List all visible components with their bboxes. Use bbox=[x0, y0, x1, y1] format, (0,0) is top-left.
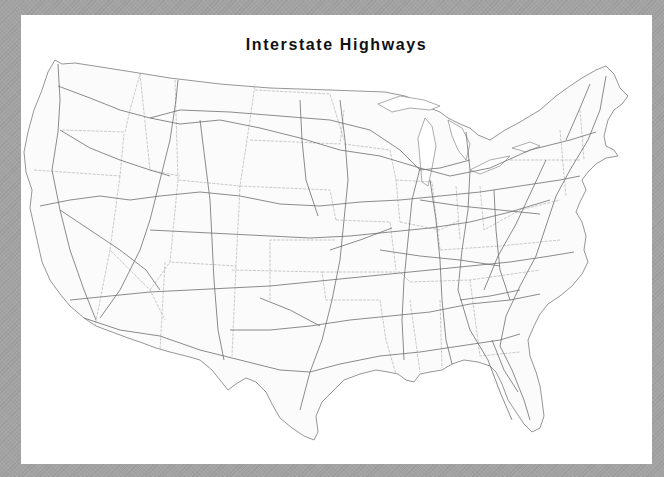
us-landmass bbox=[24, 60, 628, 440]
us-interstate-map bbox=[0, 0, 664, 477]
